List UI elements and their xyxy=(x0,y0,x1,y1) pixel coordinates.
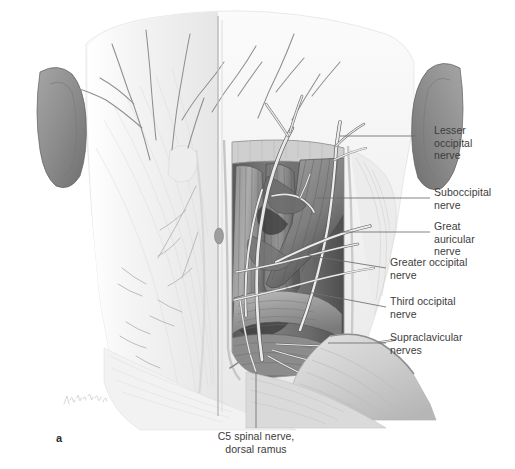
artist-signature xyxy=(64,394,107,404)
anatomical-plate: Lesser occipital nerve Suboccipital nerv… xyxy=(0,0,515,469)
caption-c5-spinal-nerve: C5 spinal nerve, dorsal ramus xyxy=(196,430,316,455)
label-greater-occipital-nerve: Greater occipital nerve xyxy=(390,256,467,281)
label-third-occipital-nerve: Third occipital nerve xyxy=(390,295,456,320)
label-lesser-occipital-nerve: Lesser occipital nerve xyxy=(434,124,472,162)
left-ear xyxy=(37,67,86,187)
panel-letter: a xyxy=(56,432,62,444)
label-supraclavicular-nerves: Supraclavicular nerves xyxy=(390,331,463,356)
label-suboccipital-nerve: Suboccipital nerve xyxy=(434,186,491,211)
label-great-auricular-nerve: Great auricular nerve xyxy=(434,220,475,258)
